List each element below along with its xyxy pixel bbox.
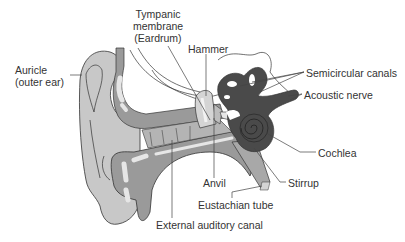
label-stirrup: Stirrup [288, 177, 319, 189]
label-anvil: Anvil [203, 177, 226, 189]
tympanic-line-2: membrane [133, 20, 183, 32]
tympanic-line-1: Tympanic [133, 8, 183, 20]
label-auricle: Auricle (outer ear) [15, 64, 64, 88]
label-semicircular-canals: Semicircular canals [306, 67, 397, 79]
auricle-line-2: (outer ear) [15, 76, 64, 88]
label-tympanic-membrane: Tympanic membrane (Eardrum) [133, 8, 183, 44]
label-eustachian-tube: Eustachian tube [198, 199, 273, 211]
tympanic-line-3: (Eardrum) [133, 32, 183, 44]
label-cochlea: Cochlea [318, 147, 357, 159]
label-external-auditory-canal: External auditory canal [156, 219, 263, 231]
auricle-line-1: Auricle [15, 64, 64, 76]
label-hammer: Hammer [188, 43, 228, 55]
label-acoustic-nerve: Acoustic nerve [304, 89, 373, 101]
